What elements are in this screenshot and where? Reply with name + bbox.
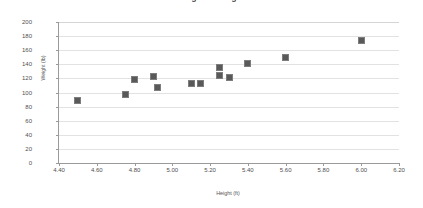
- x-axis-title: Height (ft): [58, 190, 398, 196]
- y-axis-tick-mark: [56, 78, 59, 79]
- x-axis-tick-label: 5.00: [152, 167, 192, 173]
- x-axis-tick-label: 5.60: [266, 167, 306, 173]
- y-axis-tick-label: 200: [8, 19, 32, 25]
- data-point: [244, 60, 251, 67]
- y-axis-tick-label: 80: [8, 104, 32, 110]
- gridline: [59, 36, 399, 37]
- x-axis-tick-label: 4.40: [39, 167, 79, 173]
- gridline: [59, 64, 399, 65]
- gridline: [59, 121, 399, 122]
- data-point: [282, 54, 289, 61]
- y-axis-tick-label: 100: [8, 90, 32, 96]
- chart-title: Height vs Weight: [0, 0, 423, 2]
- y-axis-tick-label: 0: [8, 160, 32, 166]
- x-axis-tick-mark: [399, 163, 400, 166]
- y-axis-tick-label: 180: [8, 33, 32, 39]
- gridline: [59, 107, 399, 108]
- y-axis-tick-mark: [56, 135, 59, 136]
- y-axis-tick-mark: [56, 149, 59, 150]
- y-axis-tick-label: 40: [8, 132, 32, 138]
- data-point: [188, 80, 195, 87]
- y-axis-tick-label: 60: [8, 118, 32, 124]
- y-axis-tick-mark: [56, 107, 59, 108]
- gridline: [59, 93, 399, 94]
- y-axis-title: Weight (lb): [40, 33, 46, 103]
- y-axis-tick-mark: [56, 121, 59, 122]
- x-axis-tick-label: 4.80: [115, 167, 155, 173]
- y-axis-tick-label: 120: [8, 75, 32, 81]
- data-point: [226, 74, 233, 81]
- y-axis-tick-label: 160: [8, 47, 32, 53]
- plot-area: 0204060801001201401601802004.404.604.805…: [58, 22, 399, 164]
- y-axis-tick-mark: [56, 36, 59, 37]
- data-point: [150, 73, 157, 80]
- x-axis-tick-mark: [361, 163, 362, 166]
- gridline: [59, 50, 399, 51]
- x-axis-tick-label: 6.00: [341, 167, 381, 173]
- y-axis-tick-label: 20: [8, 146, 32, 152]
- x-axis-tick-mark: [210, 163, 211, 166]
- x-axis-tick-label: 5.80: [303, 167, 343, 173]
- y-axis-tick-mark: [56, 50, 59, 51]
- x-axis-tick-label: 6.20: [379, 167, 419, 173]
- gridline: [59, 22, 399, 23]
- data-point: [197, 80, 204, 87]
- x-axis-tick-mark: [172, 163, 173, 166]
- x-axis-tick-mark: [59, 163, 60, 166]
- x-axis-tick-mark: [248, 163, 249, 166]
- y-axis-tick-mark: [56, 93, 59, 94]
- data-point: [216, 64, 223, 71]
- data-point: [154, 84, 161, 91]
- y-axis-tick-mark: [56, 22, 59, 23]
- x-axis-tick-mark: [323, 163, 324, 166]
- data-point: [131, 76, 138, 83]
- data-point: [74, 97, 81, 104]
- x-axis-tick-mark: [286, 163, 287, 166]
- x-axis-tick-label: 5.40: [228, 167, 268, 173]
- data-point: [216, 72, 223, 79]
- gridline: [59, 135, 399, 136]
- scatter-chart: Height vs Weight Weight (lb) 02040608010…: [0, 0, 423, 208]
- data-point: [122, 91, 129, 98]
- x-axis-tick-mark: [97, 163, 98, 166]
- gridline: [59, 149, 399, 150]
- x-axis-tick-label: 5.20: [190, 167, 230, 173]
- data-point: [358, 37, 365, 44]
- x-axis-tick-label: 4.60: [77, 167, 117, 173]
- y-axis-tick-label: 140: [8, 61, 32, 67]
- y-axis-tick-mark: [56, 64, 59, 65]
- x-axis-tick-mark: [135, 163, 136, 166]
